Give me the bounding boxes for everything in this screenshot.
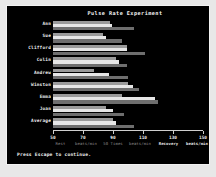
bar-group	[53, 69, 203, 80]
category-label: Emma	[15, 94, 51, 99]
x-axis-tick-label: 70	[80, 135, 85, 140]
chart-row: Andrew	[15, 69, 203, 80]
axis-group-label: Recovery	[159, 141, 179, 146]
axis-group-label: beats/min	[129, 141, 151, 146]
application-screen: Pulse Rate Experiment AnnSueCliffordColi…	[0, 0, 216, 177]
category-label: Average	[15, 118, 51, 123]
bar-group	[53, 118, 203, 129]
bar-group	[53, 20, 203, 31]
chart-row: Clifford	[15, 44, 203, 55]
bar-chart-plot-area: AnnSueCliffordColinAndrewWinstonEmmaJoan…	[15, 20, 203, 130]
x-axis-tick-label: 110	[139, 135, 147, 140]
page-title: Pulse Rate Experiment	[7, 10, 209, 16]
axis-group-label: beats/min	[186, 141, 208, 146]
status-hint: Press Escape to continue.	[17, 152, 91, 157]
chart-frame: Pulse Rate Experiment AnnSueCliffordColi…	[6, 5, 210, 165]
bar-recovery	[53, 52, 145, 55]
x-axis-tick-label: 90	[110, 135, 115, 140]
bar-group	[53, 44, 203, 55]
category-label: Winston	[15, 82, 51, 87]
x-axis-tick-label: 50	[50, 135, 55, 140]
chart-row: Winston	[15, 81, 203, 92]
bar-recovery	[53, 125, 134, 128]
chart-row: Sue	[15, 32, 203, 43]
bar-recovery	[53, 39, 122, 42]
bar-recovery	[53, 100, 158, 103]
axis-group-label: beats/min	[75, 141, 97, 146]
axis-group-label: Rest	[56, 141, 66, 146]
category-label: Joan	[15, 106, 51, 111]
chart-row: Ann	[15, 20, 203, 31]
x-axis-tick-label: 150	[199, 135, 207, 140]
category-label: Sue	[15, 33, 51, 38]
bar-group	[53, 32, 203, 43]
chart-row: Joan	[15, 105, 203, 116]
bar-group	[53, 57, 203, 68]
category-label: Andrew	[15, 70, 51, 75]
chart-row: Colin	[15, 57, 203, 68]
bar-group	[53, 81, 203, 92]
chart-row: Emma	[15, 93, 203, 104]
bar-recovery	[53, 27, 134, 30]
axis-group-label: 50 Times	[103, 141, 123, 146]
bar-group	[53, 105, 203, 116]
bar-recovery	[53, 88, 139, 91]
x-axis: 507090110130150Restbeats/min50 Timesbeat…	[53, 130, 203, 134]
category-label: Ann	[15, 21, 51, 26]
x-axis-tick-label: 130	[169, 135, 177, 140]
bar-recovery	[53, 113, 124, 116]
bar-recovery	[53, 76, 128, 79]
category-label: Colin	[15, 57, 51, 62]
bar-recovery	[53, 64, 127, 67]
category-label: Clifford	[15, 45, 51, 50]
bar-group	[53, 93, 203, 104]
chart-row: Average	[15, 118, 203, 129]
